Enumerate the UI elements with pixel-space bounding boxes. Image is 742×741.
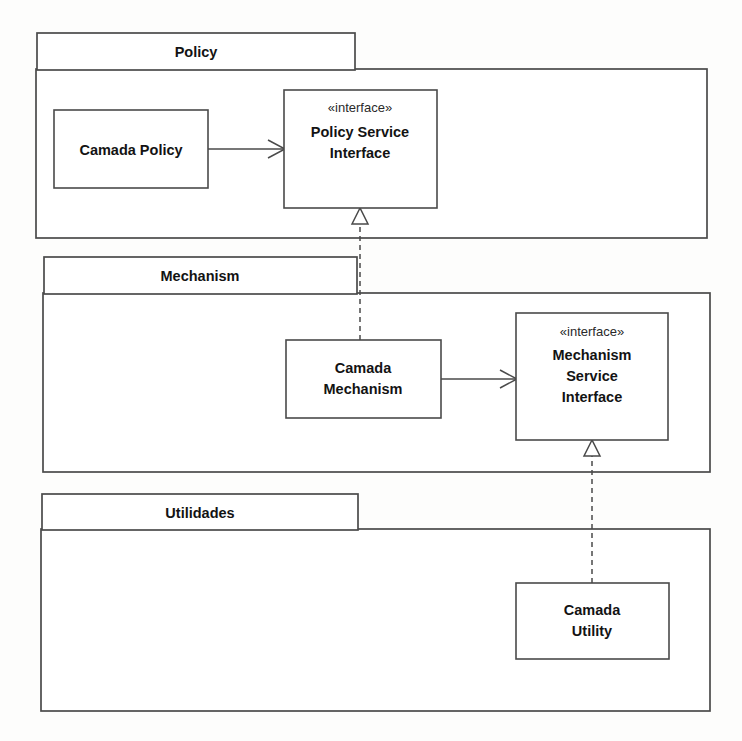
class-policy-service-interface-label-line-2: Interface <box>330 145 390 161</box>
class-camada-mechanism-box <box>286 340 441 418</box>
package-policy-label: Policy <box>175 44 218 60</box>
package-mechanism-label: Mechanism <box>161 268 240 284</box>
class-camada-utility[interactable]: Camada Utility <box>516 583 669 659</box>
class-mechanism-service-interface-label-line-3: Interface <box>562 389 622 405</box>
class-policy-service-interface-stereotype: «interface» <box>328 100 392 115</box>
class-mechanism-service-interface-label-line-1: Mechanism <box>553 347 632 363</box>
class-camada-mechanism-label-line-2: Mechanism <box>324 381 403 397</box>
class-mechanism-service-interface-label-line-2: Service <box>566 368 618 384</box>
class-camada-mechanism-label-line-1: Camada <box>335 360 392 376</box>
class-policy-service-interface-label-line-1: Policy Service <box>311 124 409 140</box>
class-camada-utility-label-line-1: Camada <box>564 602 621 618</box>
class-camada-policy[interactable]: Camada Policy <box>54 110 208 188</box>
class-mechanism-service-interface-stereotype: «interface» <box>560 324 624 339</box>
class-camada-utility-box <box>516 583 669 659</box>
package-utilidades-label: Utilidades <box>165 505 234 521</box>
class-policy-service-interface[interactable]: «interface» Policy Service Interface <box>284 90 437 208</box>
class-camada-utility-label-line-2: Utility <box>572 623 612 639</box>
class-mechanism-service-interface[interactable]: «interface» Mechanism Service Interface <box>516 313 668 440</box>
uml-package-diagram: Policy Mechanism Utilidades Camad <box>0 0 742 741</box>
class-camada-mechanism[interactable]: Camada Mechanism <box>286 340 441 418</box>
class-camada-policy-label: Camada Policy <box>79 142 182 158</box>
